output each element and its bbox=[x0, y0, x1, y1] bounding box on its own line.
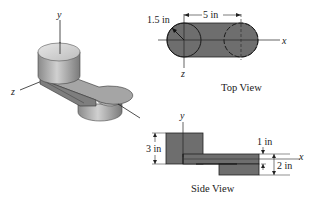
top-view-radius-label: 1.5 in bbox=[147, 14, 170, 25]
iso-z-label: z bbox=[10, 86, 15, 97]
side-view-y-label: y bbox=[179, 110, 185, 121]
top-view: x z 1.5 in 5 in Top View bbox=[147, 9, 287, 93]
top-view-spacing-label: 5 in bbox=[203, 9, 218, 20]
iso-upper-cylinder-top bbox=[38, 43, 80, 61]
side-view-lower-block bbox=[219, 164, 259, 175]
side-view: y 3 in x 1 in 2 in Side View bbox=[146, 110, 304, 194]
side-view-caption: Side View bbox=[191, 183, 235, 194]
iso-y-label: y bbox=[56, 9, 62, 20]
top-view-caption: Top View bbox=[221, 82, 262, 93]
iso-lower-cylinder bbox=[78, 104, 122, 121]
side-view-height-label: 3 in bbox=[146, 143, 161, 154]
top-view-z-label: z bbox=[180, 68, 185, 79]
top-view-x-label: x bbox=[281, 35, 287, 46]
side-view-thickness-label: 1 in bbox=[257, 136, 272, 147]
side-view-x-label: x bbox=[298, 151, 304, 162]
iso-z-axis bbox=[20, 81, 42, 90]
side-view-offset-label: 2 in bbox=[277, 160, 292, 171]
diagram-canvas: y z x z 1.5 in bbox=[0, 0, 313, 200]
isometric-view: y z bbox=[10, 9, 140, 121]
